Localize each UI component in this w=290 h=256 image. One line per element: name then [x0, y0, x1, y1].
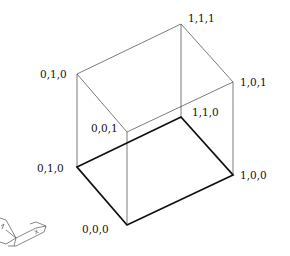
label-top-back-left: 0,1,0 [40, 68, 67, 80]
label-bottom-back-left: 0,1,0 [37, 162, 64, 174]
ucs-icon: X [0, 218, 46, 246]
label-top-back-right: 1,1,1 [188, 12, 215, 24]
label-top-front-right: 1,0,1 [240, 76, 267, 88]
label-top-front-left: 0,0,1 [91, 122, 118, 134]
label-bottom-front-left: 0,0,0 [82, 223, 109, 235]
label-bottom-back-right: 1,1,0 [192, 106, 219, 118]
label-bottom-front-right: 1,0,0 [240, 169, 267, 181]
box-diagram: 0,1,0 1,1,1 1,0,1 0,0,1 1,1,0 0,1,0 0,0,… [0, 0, 290, 256]
